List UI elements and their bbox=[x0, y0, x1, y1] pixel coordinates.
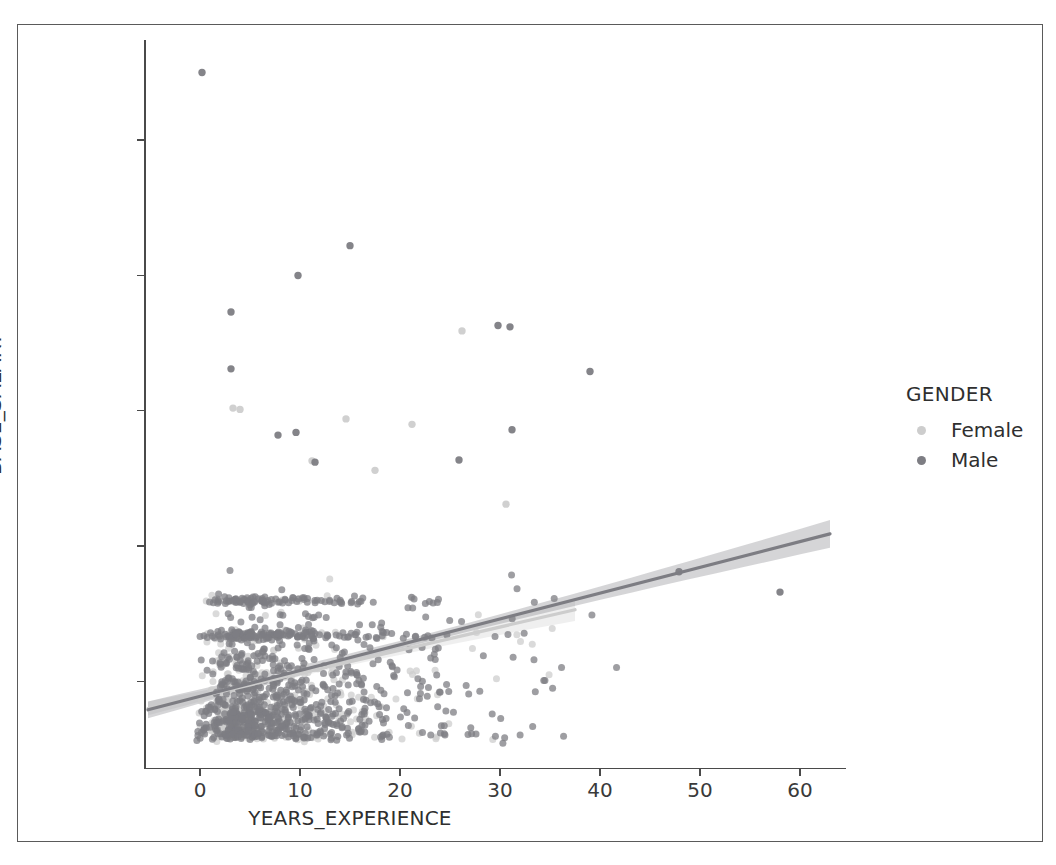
scatter-points bbox=[193, 69, 783, 747]
y-tick-mark bbox=[137, 275, 145, 276]
regression-line-male bbox=[148, 534, 830, 710]
outlier-point bbox=[776, 588, 783, 595]
outlier-point bbox=[229, 404, 236, 411]
outlier-point bbox=[346, 242, 353, 249]
x-tick-label: 20 bbox=[387, 778, 412, 802]
x-tick-mark bbox=[599, 768, 600, 776]
outlier-point bbox=[494, 322, 501, 329]
x-tick-label: 0 bbox=[194, 778, 207, 802]
x-tick-label: 40 bbox=[587, 778, 612, 802]
x-tick-label: 50 bbox=[687, 778, 712, 802]
plot-area bbox=[145, 40, 845, 768]
x-tick-label: 60 bbox=[787, 778, 812, 802]
x-tick-mark bbox=[799, 768, 800, 776]
outlier-point bbox=[506, 323, 513, 330]
scatter-canvas bbox=[145, 40, 845, 768]
legend-label-male: Male bbox=[951, 448, 998, 472]
x-tick-label: 10 bbox=[287, 778, 312, 802]
outlier-point bbox=[236, 406, 243, 413]
outlier-point bbox=[292, 429, 299, 436]
outlier-point bbox=[308, 457, 315, 464]
x-tick-mark bbox=[399, 768, 400, 776]
outlier-point bbox=[198, 69, 205, 76]
y-tick-mark bbox=[137, 410, 145, 411]
y-tick-mark bbox=[137, 545, 145, 546]
confidence-bands bbox=[148, 520, 830, 718]
outlier-point bbox=[294, 272, 301, 279]
legend-item-female[interactable]: Female bbox=[906, 415, 1036, 445]
y-tick-mark bbox=[137, 139, 145, 140]
outlier-point bbox=[458, 327, 465, 334]
outlier-point bbox=[227, 308, 234, 315]
confidence-band-female bbox=[148, 598, 575, 715]
outlier-point bbox=[342, 415, 349, 422]
legend-swatch-male bbox=[917, 456, 926, 465]
outlier-point bbox=[274, 431, 281, 438]
x-tick-mark bbox=[299, 768, 300, 776]
outlier-point bbox=[408, 421, 415, 428]
outlier-point bbox=[371, 467, 378, 474]
regression-line-female bbox=[148, 610, 575, 709]
legend-item-male[interactable]: Male bbox=[906, 445, 1036, 475]
outlier-point bbox=[586, 368, 593, 375]
legend-swatch-female bbox=[917, 426, 926, 435]
x-tick-mark bbox=[699, 768, 700, 776]
x-tick-mark bbox=[199, 768, 200, 776]
regression-lines bbox=[148, 534, 830, 710]
x-tick-mark bbox=[499, 768, 500, 776]
outlier-point bbox=[227, 365, 234, 372]
x-tick-label: 30 bbox=[487, 778, 512, 802]
y-axis-label: BASE_SALARY bbox=[0, 333, 6, 475]
outlier-point bbox=[508, 426, 515, 433]
legend-title: GENDER bbox=[906, 382, 1036, 406]
y-tick-mark bbox=[137, 681, 145, 682]
outlier-point bbox=[311, 459, 318, 466]
scatter-plot-figure: 50000100000150000200000250000 0102030405… bbox=[0, 0, 1056, 865]
legend-label-female: Female bbox=[951, 418, 1023, 442]
legend: GENDER Female Male bbox=[906, 382, 1036, 475]
outlier-point bbox=[455, 456, 462, 463]
outlier-point bbox=[675, 568, 682, 575]
confidence-band-male bbox=[148, 520, 830, 718]
x-axis-label: YEARS_EXPERIENCE bbox=[248, 806, 451, 830]
outlier-point bbox=[502, 500, 509, 507]
